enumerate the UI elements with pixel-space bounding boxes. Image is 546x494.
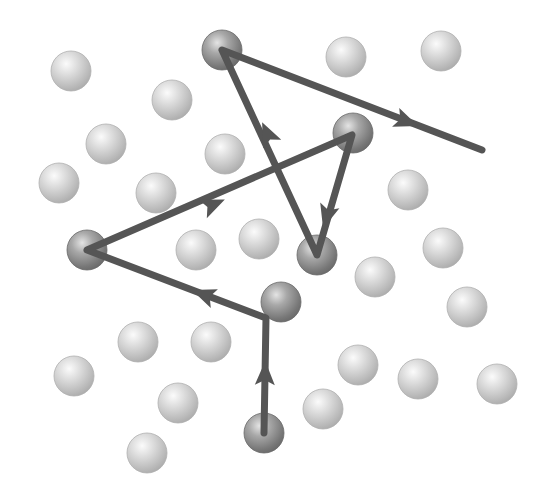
gas-molecule bbox=[398, 359, 438, 399]
gas-molecule bbox=[421, 31, 461, 71]
gas-molecules bbox=[39, 31, 517, 473]
gas-molecule bbox=[86, 124, 126, 164]
gas-molecule bbox=[205, 134, 245, 174]
gas-molecule bbox=[477, 364, 517, 404]
random-walk-diagram bbox=[0, 0, 546, 494]
gas-molecule bbox=[423, 228, 463, 268]
gas-molecule bbox=[176, 230, 216, 270]
gas-molecule bbox=[51, 51, 91, 91]
gas-molecule bbox=[136, 173, 176, 213]
gas-molecule bbox=[447, 287, 487, 327]
arrowhead-icon bbox=[188, 281, 218, 308]
gas-molecule bbox=[152, 80, 192, 120]
gas-molecule bbox=[388, 170, 428, 210]
gas-molecule bbox=[338, 345, 378, 385]
gas-molecule bbox=[191, 322, 231, 362]
gas-molecule bbox=[303, 389, 343, 429]
gas-molecule bbox=[239, 219, 279, 259]
gas-molecule bbox=[355, 257, 395, 297]
gas-molecule bbox=[127, 433, 167, 473]
gas-molecule bbox=[54, 356, 94, 396]
gas-molecule bbox=[39, 163, 79, 203]
gas-molecule bbox=[118, 322, 158, 362]
gas-molecule bbox=[158, 383, 198, 423]
diagram-canvas bbox=[0, 0, 546, 494]
gas-molecule bbox=[326, 37, 366, 77]
